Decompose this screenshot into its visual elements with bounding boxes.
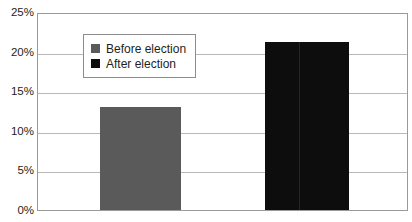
legend-label: Before election xyxy=(106,43,186,55)
bar-after-election[interactable] xyxy=(265,42,349,210)
gridline xyxy=(38,172,407,173)
y-axis-tick-label: 0% xyxy=(2,205,34,217)
bar-before-election[interactable] xyxy=(100,107,181,210)
y-axis-tick-label: 5% xyxy=(2,166,34,178)
legend-swatch-icon xyxy=(91,59,100,68)
gridline xyxy=(38,133,407,134)
plot-area: Before election After election xyxy=(37,13,408,211)
bar-chart: 25% 20% 15% 10% 5% 0% Before election xyxy=(0,0,412,222)
y-axis-tick-label: 15% xyxy=(2,86,34,98)
legend-item-after-election[interactable]: After election xyxy=(91,56,186,71)
y-axis-tick-label: 20% xyxy=(2,47,34,59)
legend-swatch-icon xyxy=(91,44,100,53)
bar-seam xyxy=(299,42,300,210)
y-axis-tick-label: 25% xyxy=(2,7,34,19)
legend: Before election After election xyxy=(83,34,196,78)
y-axis: 25% 20% 15% 10% 5% 0% xyxy=(0,0,34,222)
gridline xyxy=(38,93,407,94)
legend-label: After election xyxy=(106,58,176,70)
y-axis-tick-label: 10% xyxy=(2,126,34,138)
legend-item-before-election[interactable]: Before election xyxy=(91,41,186,56)
